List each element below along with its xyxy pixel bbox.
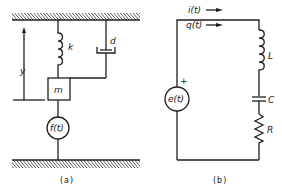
voltage-source: + e(t) <box>165 76 189 160</box>
damper-label: d <box>110 36 116 46</box>
capacitor-C: C <box>252 95 275 114</box>
figure-a-mechanical-system: y k d m f(t) <box>12 13 140 185</box>
resistor-label: R <box>267 125 273 135</box>
charge-label: q(t) <box>186 20 202 30</box>
damper-d: d <box>70 20 116 78</box>
force-source: f(t) <box>47 100 69 160</box>
displacement-label: y <box>19 66 26 76</box>
source-label: e(t) <box>168 94 184 104</box>
capacitor-label: C <box>268 95 275 105</box>
spring-label: k <box>68 42 74 52</box>
current-indicator: i(t) <box>188 5 223 15</box>
figure-b-caption: (b) <box>213 176 227 185</box>
inductor-label: L <box>268 51 273 61</box>
current-label: i(t) <box>188 5 201 15</box>
resistor-R: R <box>255 114 273 160</box>
mass-label: m <box>54 85 63 95</box>
displacement-arrow: y <box>13 27 45 100</box>
spring-k: k <box>58 20 74 78</box>
top-ground-support <box>12 13 140 20</box>
force-label: f(t) <box>50 123 64 133</box>
charge-indicator: q(t) <box>186 20 223 30</box>
circuit-wire-top-left <box>177 20 259 87</box>
bottom-ground-support <box>12 160 140 168</box>
diagram-canvas: y k d m f(t) <box>0 0 282 193</box>
source-polarity-plus: + <box>180 76 188 86</box>
figure-a-caption: (a) <box>60 176 74 185</box>
figure-b-electrical-circuit: i(t) q(t) + e(t) L C <box>165 5 275 185</box>
inductor-L: L <box>259 30 273 96</box>
mass-block: m <box>48 78 70 100</box>
